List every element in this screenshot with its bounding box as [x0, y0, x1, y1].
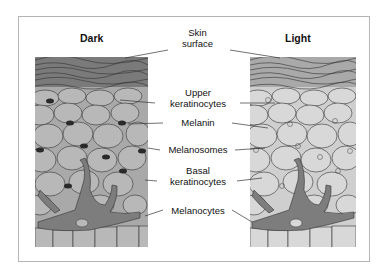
dark-title: Dark	[80, 32, 103, 44]
label-melanin: Melanin	[165, 117, 231, 128]
label-melanocytes: Melanocytes	[163, 205, 233, 216]
label-melanosomes: Melanosomes	[160, 144, 236, 155]
light-title: Light	[285, 32, 311, 44]
label-basal-keratinocytes: Basalkeratinocytes	[158, 165, 238, 187]
light-skin-panel	[240, 56, 362, 248]
label-skin-surface: Skinsurface	[170, 27, 225, 49]
label-upper-keratinocytes: Upperkeratinocytes	[158, 87, 238, 109]
dark-skin-panel	[26, 56, 151, 248]
